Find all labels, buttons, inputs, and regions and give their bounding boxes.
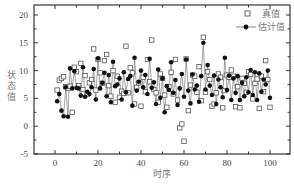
estimate-point	[261, 77, 266, 82]
true-value-point	[188, 83, 192, 87]
x-tick-label: 100	[263, 158, 277, 168]
y-tick-label: 5	[24, 93, 29, 103]
estimate-point	[134, 88, 139, 93]
estimate-point	[117, 76, 122, 81]
estimate-point	[143, 73, 148, 78]
estimate-point	[223, 56, 228, 61]
estimate-point	[66, 114, 71, 119]
x-tick-label: 40	[137, 158, 147, 168]
true-value-point	[61, 75, 65, 79]
true-value-point	[111, 68, 115, 72]
true-value-point	[169, 70, 173, 74]
true-value-point	[180, 122, 184, 126]
y-tick-label: 0	[24, 121, 29, 131]
true-value-point	[214, 91, 218, 95]
true-value-point	[113, 100, 117, 104]
estimate-point	[192, 87, 197, 92]
chart: 020406080100 -505101520 时序 状态值 真值 估计值	[0, 0, 294, 187]
true-value-point	[182, 139, 186, 143]
estimate-point	[139, 68, 144, 73]
estimate-point	[205, 63, 210, 68]
estimate-point	[130, 103, 135, 108]
estimate-point	[225, 88, 230, 93]
estimate-point	[246, 90, 251, 95]
true-value-point	[94, 88, 98, 92]
y-tick-label: 10	[19, 66, 29, 76]
estimate-point	[197, 99, 202, 104]
estimate-point	[259, 89, 264, 94]
estimate-point	[255, 98, 260, 103]
x-tick-label: 60	[180, 158, 190, 168]
estimate-point	[188, 101, 193, 106]
estimate-point	[212, 73, 217, 78]
estimate-point	[229, 98, 234, 103]
estimate-point	[160, 76, 165, 81]
true-value-point	[186, 108, 190, 112]
true-value-point	[264, 58, 268, 62]
true-value-point	[253, 81, 257, 85]
estimate-point	[111, 59, 116, 64]
estimate-point	[220, 95, 225, 100]
estimate-point	[102, 71, 107, 76]
estimate-point	[242, 94, 247, 99]
estimate-point	[104, 94, 109, 99]
true-value-point	[98, 71, 102, 75]
true-value-point	[255, 77, 259, 81]
legend: 真值 估计值	[236, 8, 285, 32]
estimate-point	[244, 75, 249, 80]
estimate-point	[231, 76, 236, 81]
estimate-point	[89, 85, 94, 90]
estimate-point	[169, 60, 174, 65]
true-value-point	[72, 65, 76, 69]
estimate-point	[81, 65, 86, 70]
true-value-point	[233, 105, 237, 109]
true-value-point	[158, 72, 162, 76]
estimate-point	[158, 96, 163, 101]
estimate-point	[251, 93, 256, 98]
estimate-point	[106, 73, 111, 78]
true-value-point	[173, 57, 177, 61]
legend-estimate-dot-icon	[244, 25, 249, 30]
estimate-point	[132, 56, 137, 61]
true-value-point	[197, 65, 201, 69]
true-value-point	[208, 77, 212, 81]
true-value-point	[205, 70, 209, 74]
estimate-point	[122, 70, 127, 75]
true-value-point	[107, 83, 111, 87]
legend-true-label: 真值	[262, 8, 280, 19]
legend-estimate-label: 估计值	[258, 21, 285, 32]
true-value-point	[89, 77, 93, 81]
estimate-point	[145, 92, 150, 97]
estimate-point	[79, 93, 84, 98]
true-value-point	[238, 106, 242, 110]
estimate-point	[87, 92, 92, 97]
estimate-point	[154, 102, 159, 107]
estimate-point	[235, 74, 240, 79]
estimate-point	[55, 99, 60, 104]
true-value-point	[175, 98, 179, 102]
estimate-point	[214, 102, 219, 107]
estimate-point	[91, 67, 96, 72]
y-tick-label: 20	[19, 10, 29, 20]
estimate-point	[61, 114, 66, 119]
estimate-point	[201, 41, 206, 46]
true-value-point	[83, 73, 87, 77]
estimate-point	[171, 91, 176, 96]
estimate-point	[240, 81, 245, 86]
estimate-point	[100, 81, 105, 86]
estimate-point	[119, 97, 124, 102]
estimate-point	[98, 86, 103, 91]
true-value-point	[124, 44, 128, 48]
estimate-point	[167, 88, 172, 93]
estimate-point	[182, 94, 187, 99]
estimate-point	[59, 108, 64, 113]
x-axis-title: 时序	[153, 168, 171, 179]
estimate-point	[257, 71, 262, 76]
estimate-point	[233, 91, 238, 96]
y-tick-label: 15	[19, 38, 29, 48]
true-value-point	[248, 72, 252, 76]
estimate-point	[180, 72, 185, 77]
estimate-point	[210, 93, 215, 98]
x-tick-label: 80	[223, 158, 233, 168]
true-value-point	[104, 52, 108, 56]
